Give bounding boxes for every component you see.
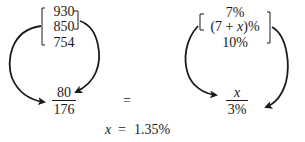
result-value: 1.35%	[134, 123, 170, 137]
left-value-2: 850	[53, 20, 75, 34]
left-inner-arrow-icon	[76, 21, 99, 92]
right-outer-arrow-icon	[266, 27, 288, 107]
right-inner-arrow-icon	[185, 26, 216, 95]
left-fraction-bar	[52, 100, 76, 101]
right-value-2: (7 + x)%	[203, 20, 267, 34]
left-value-1: 930	[53, 5, 75, 19]
right-fraction-numerator: x	[226, 86, 248, 100]
left-outer-bracket	[42, 8, 45, 45]
interpolation-diagram: 930 850 754 80 176 = 7% (7 + x)% 10% x 3…	[0, 0, 305, 142]
equals-sign: =	[123, 94, 131, 108]
left-fraction-numerator: 80	[52, 86, 76, 100]
right-fraction-bar	[226, 100, 248, 101]
right-fraction-denominator: 3%	[224, 103, 250, 117]
right-outer-bracket	[267, 12, 270, 43]
right-value-3: 10%	[215, 36, 255, 50]
left-fraction-denominator: 176	[50, 103, 78, 117]
left-value-3: 754	[53, 36, 75, 50]
result-equals: =	[118, 123, 126, 137]
result-variable: x	[105, 123, 111, 137]
right-value-1: 7%	[215, 6, 255, 20]
left-outer-arrow-icon	[10, 26, 44, 102]
